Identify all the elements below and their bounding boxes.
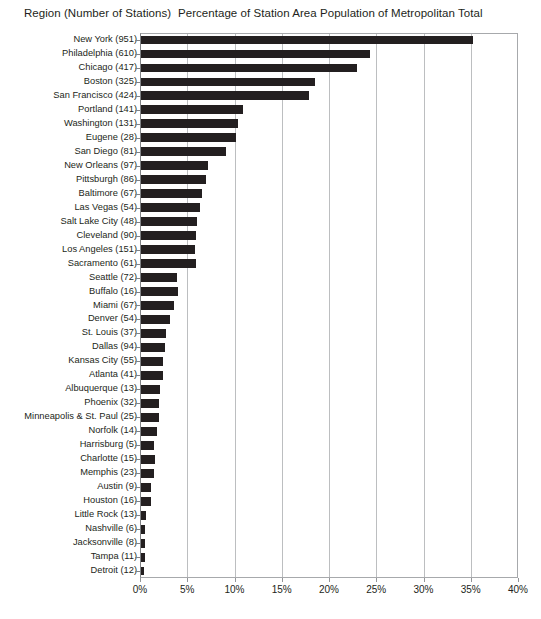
bar [141, 287, 178, 296]
bar [141, 483, 151, 492]
bar [141, 441, 154, 450]
row-tick-mark [135, 305, 140, 306]
row-tick-mark [135, 529, 140, 530]
bar-rows: New York (951)Philadelphia (610)Chicago … [0, 33, 541, 578]
row-tick-mark [135, 180, 140, 181]
row-label: New Orleans (97) [0, 159, 137, 173]
bar [141, 301, 174, 310]
bar-row: Charlotte (15) [0, 452, 541, 466]
bar [141, 119, 238, 128]
row-tick-mark [135, 347, 140, 348]
bar-row: Pittsburgh (86) [0, 173, 541, 187]
row-tick-mark [135, 543, 140, 544]
row-tick-mark [135, 222, 140, 223]
row-tick-mark [135, 571, 140, 572]
row-tick-mark [135, 319, 140, 320]
row-label: New York (951) [0, 33, 137, 47]
row-label: Baltimore (67) [0, 187, 137, 201]
x-tick-mark [376, 578, 377, 582]
row-tick-mark [135, 445, 140, 446]
row-tick-mark [135, 278, 140, 279]
x-tick-label: 0% [133, 584, 147, 595]
bar [141, 343, 165, 352]
bar-row: Detroit (12) [0, 564, 541, 578]
row-label: Minneapolis & St. Paul (25) [0, 410, 137, 424]
row-label: Chicago (417) [0, 61, 137, 75]
row-label: Memphis (23) [0, 466, 137, 480]
row-tick-mark [135, 82, 140, 83]
row-tick-mark [135, 375, 140, 376]
bar [141, 64, 357, 73]
bar [141, 78, 315, 87]
bar-row: Atlanta (41) [0, 368, 541, 382]
row-label: Boston (325) [0, 75, 137, 89]
row-label: Atlanta (41) [0, 368, 137, 382]
bar-row: Austin (9) [0, 480, 541, 494]
bar [141, 245, 195, 254]
bar [141, 413, 159, 422]
row-tick-mark [135, 557, 140, 558]
bar [141, 357, 163, 366]
x-tick-label: 35% [461, 584, 481, 595]
bar [141, 133, 236, 142]
row-label: Houston (16) [0, 494, 137, 508]
bar-chart: Region (Number of Stations) Percentage o… [0, 0, 541, 619]
bar-row: Kansas City (55) [0, 354, 541, 368]
bar [141, 553, 145, 562]
row-label: Eugene (28) [0, 131, 137, 145]
row-label: Detroit (12) [0, 564, 137, 578]
row-tick-mark [135, 138, 140, 139]
bar-row: Eugene (28) [0, 131, 541, 145]
bar-row: New York (951) [0, 33, 541, 47]
x-tick-label: 10% [224, 584, 244, 595]
bar-row: Jacksonville (8) [0, 536, 541, 550]
bar [141, 525, 145, 534]
bar-row: Tampa (11) [0, 550, 541, 564]
row-tick-mark [135, 152, 140, 153]
row-tick-mark [135, 96, 140, 97]
bar-row: Chicago (417) [0, 61, 541, 75]
bar [141, 217, 197, 226]
row-label: Pittsburgh (86) [0, 173, 137, 187]
bar [141, 161, 208, 170]
row-label: San Francisco (424) [0, 89, 137, 103]
row-label: Norfolk (14) [0, 424, 137, 438]
bar-row: St. Louis (37) [0, 326, 541, 340]
row-tick-mark [135, 459, 140, 460]
bar-row: Nashville (6) [0, 522, 541, 536]
bar-row: Los Angeles (151) [0, 243, 541, 257]
row-label: Las Vegas (54) [0, 201, 137, 215]
row-label: Philadelphia (610) [0, 47, 137, 61]
bar [141, 427, 157, 436]
row-label: Tampa (11) [0, 550, 137, 564]
bar [141, 175, 206, 184]
bar [141, 36, 473, 45]
bar-row: Houston (16) [0, 494, 541, 508]
x-tick-label: 30% [413, 584, 433, 595]
bar [141, 399, 159, 408]
row-label: Nashville (6) [0, 522, 137, 536]
x-tick-mark [140, 578, 141, 582]
bar [141, 105, 243, 114]
bar-row: Denver (54) [0, 312, 541, 326]
bar-row: Cleveland (90) [0, 229, 541, 243]
bar [141, 203, 200, 212]
chart-header: Region (Number of Stations) Percentage o… [0, 7, 541, 27]
bar-row: Buffalo (16) [0, 285, 541, 299]
x-tick-label: 15% [272, 584, 292, 595]
bar [141, 385, 160, 394]
row-label: Kansas City (55) [0, 354, 137, 368]
row-tick-mark [135, 236, 140, 237]
bar-row: Philadelphia (610) [0, 47, 541, 61]
row-label: Miami (67) [0, 299, 137, 313]
row-tick-mark [135, 473, 140, 474]
bar [141, 329, 166, 338]
bar [141, 189, 202, 198]
bar [141, 315, 170, 324]
row-tick-mark [135, 431, 140, 432]
row-tick-mark [135, 515, 140, 516]
bar [141, 469, 154, 478]
bar [141, 567, 144, 576]
page-title: Percentage of Station Area Population of… [178, 7, 483, 19]
x-tick-mark [471, 578, 472, 582]
